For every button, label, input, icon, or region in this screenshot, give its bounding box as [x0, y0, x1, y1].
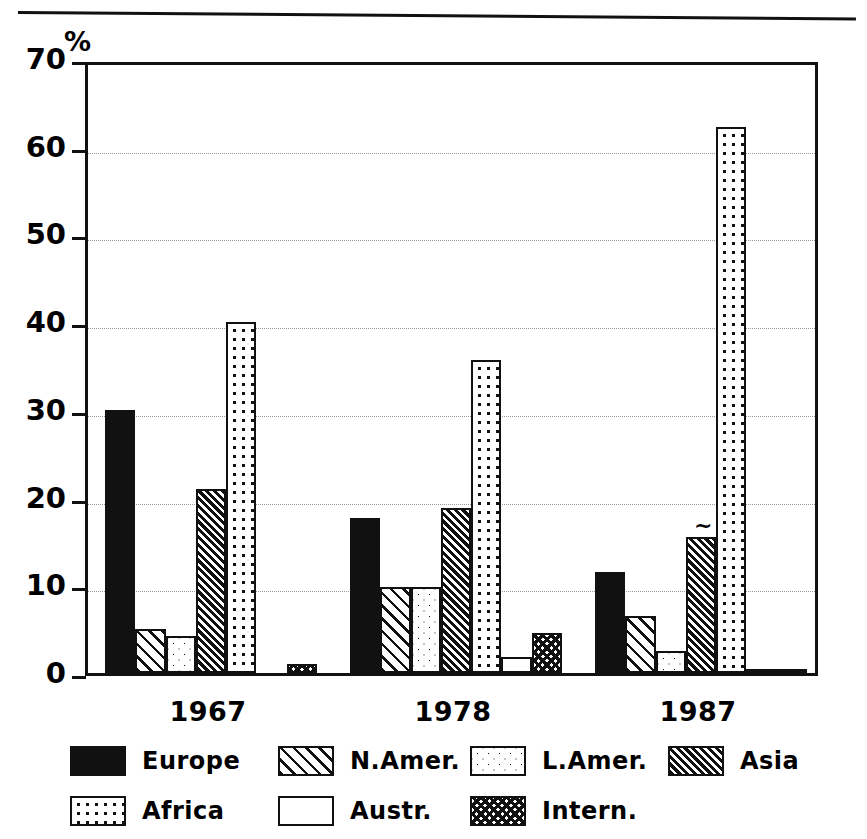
- legend-label-austr: Austr.: [350, 796, 432, 826]
- legend-swatch-africa-icon: [70, 796, 126, 826]
- legend-label-asia: Asia: [740, 746, 799, 776]
- y-axis-label-50: 50: [8, 220, 66, 249]
- legend-swatch-intern-icon: [470, 796, 526, 826]
- bar-intern-1967: [287, 664, 317, 673]
- bar-n-amer-1987: [625, 616, 655, 673]
- bar-africa-1967: [226, 322, 256, 673]
- y-axis-label-10: 10: [8, 571, 66, 600]
- bar-austr-1978: [501, 657, 531, 673]
- legend-label-l-amer: L.Amer.: [542, 746, 647, 776]
- chart-legend: EuropeN.Amer.L.Amer.AsiaAfricaAustr.Inte…: [70, 742, 860, 834]
- bar-africa-1978: [471, 360, 501, 673]
- y-axis-tick-10: [72, 588, 86, 591]
- bar-asia-1987: [686, 537, 716, 673]
- legend-row-2: AfricaAustr.Intern.: [70, 792, 860, 832]
- bar-n-amer-1967: [135, 629, 165, 673]
- plot-area: ~: [85, 62, 818, 676]
- bar-austr-1987: [746, 669, 776, 673]
- bar-l-amer-1978: [411, 587, 441, 673]
- annotation-tilde-mark: ~: [694, 515, 712, 537]
- bar-chart-figure: % 010203040506070 ~ 196719781987 EuropeN…: [0, 0, 867, 839]
- legend-label-africa: Africa: [142, 796, 225, 826]
- y-axis-tick-60: [72, 150, 86, 153]
- bar-africa-1987: [716, 127, 746, 673]
- legend-label-n-amer: N.Amer.: [350, 746, 460, 776]
- y-axis-unit-label: %: [64, 26, 91, 57]
- legend-label-intern: Intern.: [542, 796, 637, 826]
- y-axis-tick-labels: 010203040506070: [0, 0, 66, 839]
- bar-asia-1978: [441, 508, 471, 673]
- bars-layer: ~: [88, 65, 815, 673]
- legend-swatch-austr-icon: [278, 796, 334, 826]
- legend-swatch-n-amer-icon: [278, 746, 334, 776]
- y-axis-label-0: 0: [8, 659, 66, 688]
- legend-swatch-europe-icon: [70, 746, 126, 776]
- bar-l-amer-1967: [166, 636, 196, 673]
- legend-swatch-l-amer-icon: [470, 746, 526, 776]
- y-axis-tick-40: [72, 325, 86, 328]
- y-axis-label-40: 40: [8, 308, 66, 337]
- bar-europe-1967: [105, 410, 135, 673]
- y-axis-label-60: 60: [8, 133, 66, 162]
- bar-intern-1987: [777, 669, 807, 673]
- y-axis-tick-20: [72, 501, 86, 504]
- bar-intern-1978: [532, 633, 562, 673]
- x-axis-label-1978: 1978: [393, 696, 513, 727]
- bar-europe-1987: [595, 572, 625, 673]
- y-axis-label-30: 30: [8, 396, 66, 425]
- x-axis-label-1967: 1967: [148, 696, 268, 727]
- y-axis-label-20: 20: [8, 484, 66, 513]
- legend-swatch-asia-icon: [668, 746, 724, 776]
- bar-l-amer-1987: [656, 651, 686, 673]
- y-axis-label-70: 70: [8, 45, 66, 74]
- legend-row-1: EuropeN.Amer.L.Amer.Asia: [70, 742, 860, 782]
- y-axis-tick-50: [72, 237, 86, 240]
- bar-n-amer-1978: [380, 587, 410, 673]
- legend-label-europe: Europe: [142, 746, 240, 776]
- y-axis-tick-30: [72, 413, 86, 416]
- x-axis-label-1987: 1987: [638, 696, 758, 727]
- bar-europe-1978: [350, 518, 380, 673]
- y-axis-tick-0: [72, 676, 86, 679]
- bar-asia-1967: [196, 489, 226, 673]
- y-axis-tick-70: [72, 62, 86, 65]
